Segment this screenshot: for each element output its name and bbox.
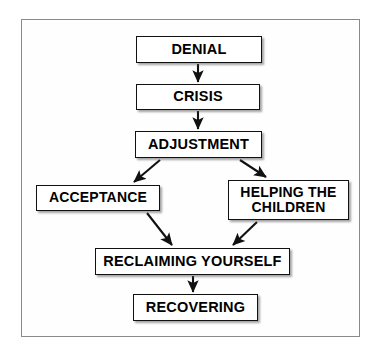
node-crisis[interactable]: CRISIS (136, 84, 260, 110)
edge-adjustment-to-helping (240, 160, 266, 177)
edge-acceptance-to-reclaiming (147, 213, 172, 245)
node-reclaiming-yourself[interactable]: RECLAIMING YOURSELF (95, 248, 290, 275)
node-adjustment[interactable]: ADJUSTMENT (135, 131, 262, 158)
node-acceptance[interactable]: ACCEPTANCE (36, 185, 160, 211)
node-recovering[interactable]: RECOVERING (133, 294, 258, 321)
edge-adjustment-to-acceptance (134, 160, 160, 182)
node-denial[interactable]: DENIAL (136, 36, 262, 63)
edge-helping-to-reclaiming (233, 222, 257, 245)
node-helping-the-children[interactable]: HELPING THE CHILDREN (228, 180, 349, 220)
